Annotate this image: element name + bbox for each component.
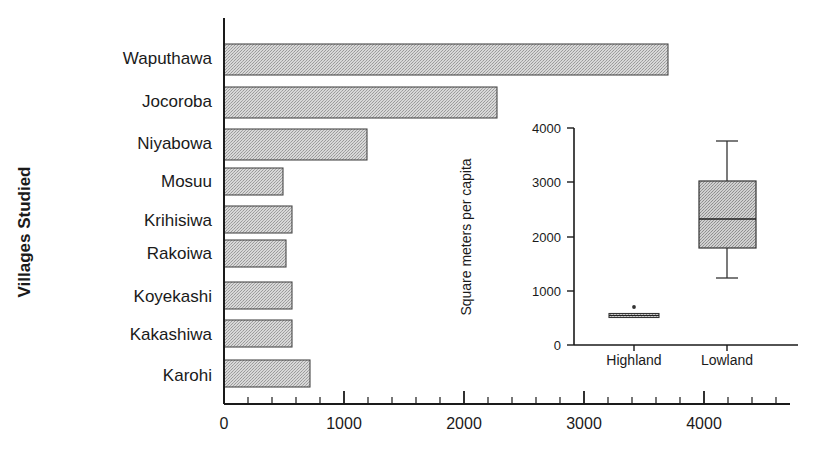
- main-category-label-niyabowa: Niyabowa: [137, 134, 212, 153]
- main-category-label-jocoroba: Jocoroba: [142, 92, 212, 111]
- inset-y-tick-label-4000: 4000: [532, 121, 561, 136]
- main-x-tick-label-2000: 2000: [446, 415, 482, 432]
- main-category-label-mosuu: Mosuu: [161, 172, 212, 191]
- bar-niyabowa: [224, 129, 367, 160]
- figure-container: Villages Studied Waputhawa Jocoroba Niya…: [0, 0, 833, 462]
- village-land-area-figure: Villages Studied Waputhawa Jocoroba Niya…: [0, 0, 833, 462]
- boxplot-highland-outlier: [632, 305, 636, 309]
- main-category-label-krihisiwa: Krihisiwa: [144, 211, 213, 230]
- main-x-tick-label-1000: 1000: [326, 415, 362, 432]
- main-category-label-waputhawa: Waputhawa: [123, 49, 213, 68]
- inset-y-tick-label-2000: 2000: [532, 230, 561, 245]
- inset-y-axis-title: Square meters per capita: [458, 158, 474, 315]
- bar-karohi: [224, 360, 310, 387]
- boxplot-lowland-box: [699, 181, 756, 248]
- inset-category-label-lowland: Lowland: [701, 352, 753, 368]
- main-x-tick-label-0: 0: [220, 415, 229, 432]
- bar-mosuu: [224, 168, 283, 195]
- inset-y-tick-label-3000: 3000: [532, 175, 561, 190]
- inset-y-tick-label-1000: 1000: [532, 284, 561, 299]
- bar-kakashiwa: [224, 320, 292, 347]
- main-x-tick-label-3000: 3000: [566, 415, 602, 432]
- inset-y-tick-label-0: 0: [554, 338, 561, 353]
- main-x-tick-label-4000: 4000: [686, 415, 722, 432]
- bar-rakoiwa: [224, 240, 286, 267]
- main-category-label-kakashiwa: Kakashiwa: [130, 325, 213, 344]
- inset-category-label-highland: Highland: [606, 352, 661, 368]
- main-category-label-koyekashi: Koyekashi: [134, 287, 212, 306]
- main-y-axis-title: Villages Studied: [15, 166, 34, 297]
- bar-krihisiwa: [224, 206, 292, 233]
- bar-waputhawa: [224, 44, 668, 75]
- bar-koyekashi: [224, 282, 292, 309]
- main-category-label-karohi: Karohi: [163, 366, 212, 385]
- bar-jocoroba: [224, 87, 497, 118]
- main-category-label-rakoiwa: Rakoiwa: [147, 244, 213, 263]
